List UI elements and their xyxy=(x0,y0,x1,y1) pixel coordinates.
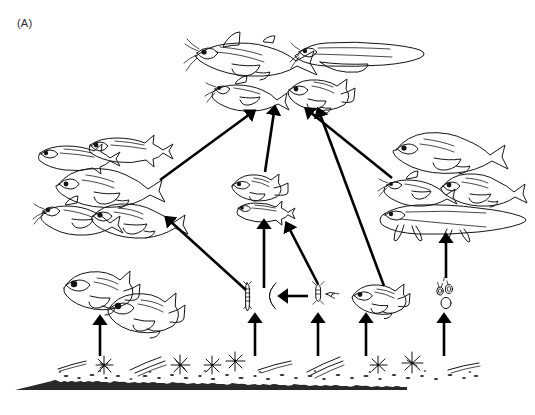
deep-bodied-barb-icon xyxy=(56,169,165,208)
top-predator-layer xyxy=(184,32,424,114)
flow-arrow xyxy=(289,228,318,284)
flow-arrow xyxy=(170,221,246,290)
filamentous-algae-icon xyxy=(58,361,86,371)
small-catfish-icon xyxy=(33,196,123,235)
deep-bodied-fish-icon xyxy=(352,284,410,319)
food-web-figure: (A) xyxy=(0,0,535,415)
flow-arrow xyxy=(160,114,250,180)
star-diatom-icon xyxy=(96,356,113,374)
deep-bodied-fish-icon xyxy=(64,271,140,315)
deep-bodied-fish-icon xyxy=(92,204,189,238)
flow-arrow xyxy=(265,112,274,172)
elongate-predator-icon xyxy=(290,42,424,72)
star-diatom-icon xyxy=(171,355,190,374)
deep-bodied-fish-icon xyxy=(288,79,355,114)
mid-consumer-layer xyxy=(33,133,527,243)
zooplankton-icon xyxy=(437,278,453,309)
detritus-bed-icon xyxy=(15,370,478,390)
filamentous-algae-icon xyxy=(130,357,166,376)
deep-bodied-barb-icon xyxy=(393,133,508,174)
filamentous-algae-icon xyxy=(258,361,292,373)
elongate-eel-fish-icon xyxy=(380,205,526,243)
food-web-canvas xyxy=(0,0,535,415)
curved-worm-icon xyxy=(269,283,276,309)
deep-bodied-fish-icon xyxy=(108,293,185,338)
star-diatom-icon xyxy=(402,352,423,373)
flow-arrow xyxy=(320,114,384,286)
basal-resource-layer xyxy=(15,352,480,390)
small-catfish-icon xyxy=(205,76,289,111)
star-diatom-icon xyxy=(370,356,387,373)
slender-minnow-icon xyxy=(237,201,295,225)
deep-bodied-fish-icon xyxy=(232,174,288,201)
filamentous-algae-icon xyxy=(448,363,480,373)
star-diatom-icon xyxy=(226,352,245,371)
aquatic-insect-icon xyxy=(312,282,339,305)
slender-minnow-icon xyxy=(89,135,173,167)
star-diatom-icon xyxy=(204,356,221,374)
invertebrate-layer xyxy=(64,271,453,338)
segmented-larva-icon xyxy=(244,282,252,311)
